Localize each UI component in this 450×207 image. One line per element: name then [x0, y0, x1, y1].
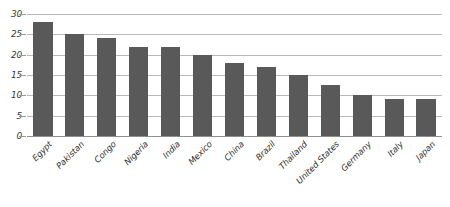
- bar-china: [225, 63, 244, 136]
- y-tick-mark-30: [19, 14, 26, 15]
- bars: [27, 14, 442, 136]
- x-label-congo: Congo: [92, 139, 118, 165]
- x-label-nigeria: Nigeria: [122, 139, 150, 167]
- bar-india: [161, 47, 180, 136]
- x-label-pakistan: Pakistan: [54, 139, 86, 171]
- x-label-italy: Italy: [385, 139, 405, 159]
- x-label-japan: Japan: [414, 139, 437, 162]
- y-tick-mark-25: [19, 34, 26, 35]
- y-tick-mark-5: [19, 116, 26, 117]
- bar-thailand: [289, 75, 308, 136]
- y-tick-mark-0: [19, 136, 26, 137]
- bar-brazil: [257, 67, 276, 136]
- x-label-india: India: [160, 139, 181, 160]
- y-tick-mark-15: [19, 75, 26, 76]
- x-label-germany: Germany: [339, 139, 373, 173]
- x-label-brazil: Brazil: [254, 139, 277, 162]
- bar-mexico: [193, 55, 212, 136]
- bar-congo: [97, 38, 116, 136]
- bar-egypt: [33, 22, 52, 136]
- x-label-mexico: Mexico: [186, 139, 214, 167]
- bar-japan: [416, 99, 435, 136]
- bar-italy: [385, 99, 404, 136]
- plot-area: [27, 14, 442, 136]
- y-tick-mark-20: [19, 55, 26, 56]
- bar-nigeria: [129, 47, 148, 136]
- y-tick-mark-10: [19, 95, 26, 96]
- bar-pakistan: [65, 34, 84, 136]
- x-label-china: China: [222, 139, 246, 163]
- x-axis-category-labels: EgyptPakistanCongoNigeriaIndiaMexicoChin…: [27, 137, 442, 207]
- bar-germany: [353, 95, 372, 136]
- bar-chart: 051015202530 EgyptPakistanCongoNigeriaIn…: [0, 0, 450, 207]
- bar-united-states: [321, 85, 340, 136]
- x-label-egypt: Egypt: [30, 139, 54, 163]
